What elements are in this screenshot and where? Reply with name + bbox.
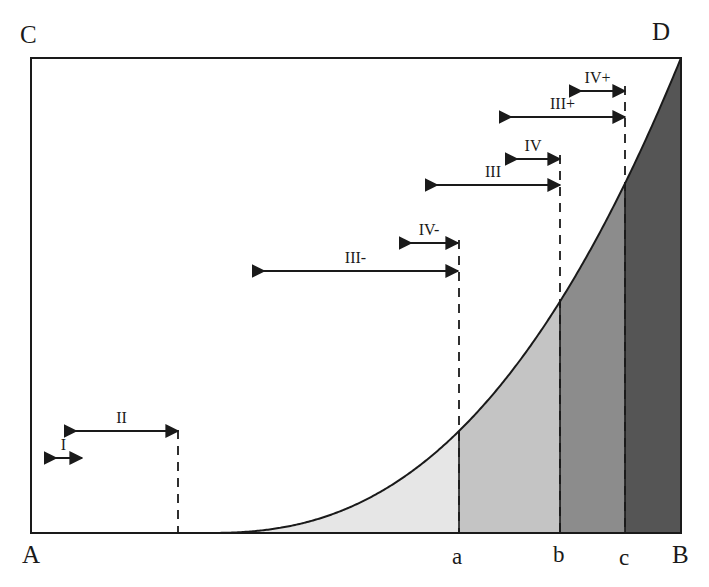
corner-label-a: A [22,542,40,567]
corner-label-d: D [652,19,670,44]
axis-label-c-lower: c [619,546,629,569]
shaded-area-group [205,59,681,533]
span-arrow-iii-label: III [485,164,501,180]
span-arrow-iv-label: IV [525,138,542,154]
span-arrow-iv-minus-label: IV- [419,222,440,238]
axis-label-b-lower: b [553,543,565,566]
span-arrow-iii-minus-label: III- [345,250,366,266]
corner-label-b: B [672,542,689,567]
span-arrow-i-label: I [61,437,66,453]
span-arrow-iv-plus-label: IV+ [585,70,611,86]
figure-canvas: CDAB abc IV+III+IVIIIIV-III-III [0,0,709,587]
axis-label-a-lower: a [452,545,462,568]
span-arrow-ii-label: II [116,410,127,426]
figure-vector-layer [0,0,709,587]
corner-label-c: C [20,22,37,47]
span-arrow-iii-plus-label: III+ [550,96,575,112]
